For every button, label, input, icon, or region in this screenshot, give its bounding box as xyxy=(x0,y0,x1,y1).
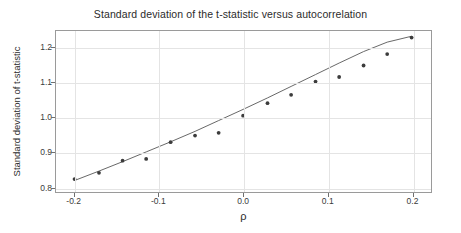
data-point xyxy=(337,75,341,79)
plot-area xyxy=(55,30,432,193)
chart-title: Standard deviation of the t-statistic ve… xyxy=(0,8,461,20)
x-tick-label: -0.1 xyxy=(151,196,166,206)
fit-line xyxy=(75,36,412,180)
data-point xyxy=(121,159,125,163)
x-axis-tick-labels: -0.2-0.10.00.10.2 xyxy=(55,196,432,210)
x-tick-label: -0.2 xyxy=(66,196,81,206)
x-axis-label: ρ xyxy=(55,210,432,222)
x-tick-label: 0.0 xyxy=(237,196,249,206)
data-point xyxy=(362,64,366,68)
gridline-horizontal xyxy=(56,189,431,190)
y-axis-tick-labels: 0.80.91.01.11.2 xyxy=(26,30,52,193)
gridline-vertical xyxy=(329,31,330,192)
gridline-vertical xyxy=(159,31,160,192)
data-point xyxy=(144,157,148,161)
y-axis-label-text: Standard deviation of t-statistic xyxy=(12,47,23,177)
gridline-horizontal xyxy=(56,118,431,119)
data-point xyxy=(289,93,293,97)
data-point xyxy=(97,171,101,175)
y-axis-label: Standard deviation of t-statistic xyxy=(10,30,24,193)
data-point xyxy=(169,140,173,144)
data-point xyxy=(193,134,197,138)
x-tick-label: 0.1 xyxy=(322,196,334,206)
gridline-horizontal xyxy=(56,83,431,84)
data-point xyxy=(217,131,221,135)
chart-page: Standard deviation of the t-statistic ve… xyxy=(0,0,461,233)
data-point xyxy=(385,52,389,56)
gridline-vertical xyxy=(244,31,245,192)
gridline-horizontal xyxy=(56,48,431,49)
gridline-vertical xyxy=(75,31,76,192)
gridline-horizontal xyxy=(56,153,431,154)
gridline-vertical xyxy=(414,31,415,192)
x-tick-label: 0.2 xyxy=(407,196,419,206)
data-point xyxy=(266,101,270,105)
